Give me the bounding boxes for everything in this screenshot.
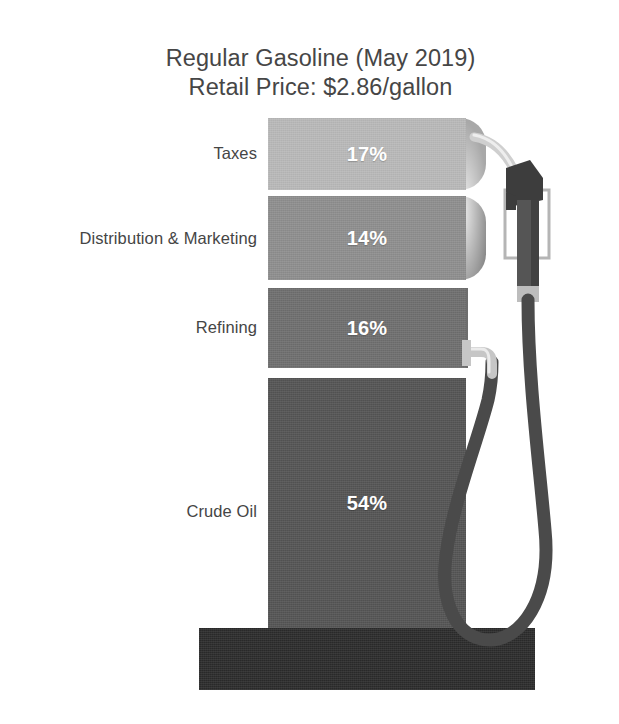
- bar-segment-crude-oil[interactable]: 54%: [268, 378, 466, 628]
- hose-outlet-elbow-highlight: [469, 349, 489, 372]
- nozzle-head: [506, 160, 543, 206]
- bar-value-refining: 16%: [268, 317, 466, 340]
- category-label-distribution-marketing: Distribution & Marketing: [79, 229, 257, 248]
- bar-value-distribution-marketing: 14%: [268, 227, 466, 250]
- nozzle-grip: [517, 200, 539, 286]
- nozzle-trigger-guard: [506, 192, 516, 210]
- bar-value-taxes: 17%: [268, 143, 466, 166]
- nozzle-grip-shade: [531, 200, 539, 286]
- category-label-crude-oil: Crude Oil: [186, 502, 257, 521]
- bar-segment-refining[interactable]: 16%: [268, 288, 466, 368]
- bar-segment-distribution-marketing[interactable]: 14%: [268, 196, 466, 280]
- nozzle-hose-collar: [517, 286, 539, 302]
- category-label-taxes: Taxes: [213, 144, 257, 163]
- nozzle-holster-bracket: [505, 190, 549, 258]
- hose-outlet-elbow: [468, 352, 492, 374]
- pump-base: [199, 628, 535, 690]
- category-label-refining: Refining: [196, 318, 257, 337]
- chart-plot-area: Taxes Distribution & Marketing Refining …: [0, 0, 619, 724]
- gas-price-breakdown-figure: Regular Gasoline (May 2019) Retail Price…: [0, 0, 619, 724]
- bar-segment-taxes[interactable]: 17%: [268, 118, 466, 190]
- bar-value-crude-oil: 54%: [268, 492, 466, 515]
- base-texture: [199, 628, 535, 690]
